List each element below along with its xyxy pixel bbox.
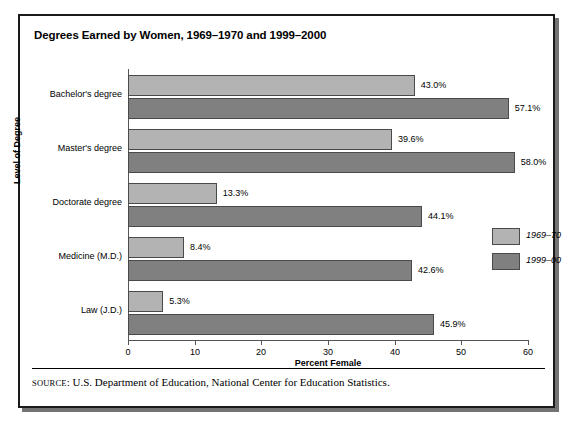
bar-medicine-1969 [128,237,184,258]
bar-masters-1969 [128,129,392,150]
source-divider [32,368,545,369]
x-tick-60 [528,340,529,345]
bar-value-bachelors-1969: 43.0% [421,75,447,96]
legend-label-1969: 1969–70 [526,230,561,240]
figure-frame: Degrees Earned by Women, 1969–1970 and 1… [18,14,555,408]
bar-doctorate-1969 [128,183,217,204]
x-tick-label-0: 0 [125,347,130,357]
x-tick-40 [395,340,396,345]
bar-law-1999 [128,314,434,335]
x-tick-label-60: 60 [523,347,533,357]
chart-legend: 1969–70 1999–00 [492,226,552,276]
bar-value-law-1999: 45.9% [440,314,466,335]
bar-masters-1999 [128,152,515,173]
category-label-masters: Master's degree [58,143,122,153]
x-tick-10 [195,340,196,345]
bar-value-law-1969: 5.3% [169,291,190,312]
bar-law-1969 [128,291,163,312]
bar-value-doctorate-1999: 44.1% [428,206,454,227]
x-tick-30 [328,340,329,345]
bar-value-masters-1999: 58.0% [521,152,547,173]
category-label-medicine: Medicine (M.D.) [58,251,122,261]
source-prefix: SOURCE [32,378,67,388]
bar-value-bachelors-1999: 57.1% [515,98,541,119]
source-note: SOURCE: U.S. Department of Education, Na… [32,376,390,388]
category-label-law: Law (J.D.) [81,305,122,315]
bar-bachelors-1999 [128,98,509,119]
x-tick-label-40: 40 [390,347,400,357]
x-tick-label-10: 10 [190,347,200,357]
bar-value-medicine-1999: 42.6% [418,260,444,281]
bar-bachelors-1969 [128,75,415,96]
x-tick-0 [128,340,129,345]
x-tick-label-30: 30 [323,347,333,357]
source-text: : U.S. Department of Education, National… [67,376,390,388]
chart-title: Degrees Earned by Women, 1969–1970 and 1… [34,29,326,41]
category-label-doctorate: Doctorate degree [52,197,122,207]
x-tick-50 [461,340,462,345]
category-label-column: Bachelor's degree Master's degree Doctor… [20,69,122,340]
x-tick-label-20: 20 [256,347,266,357]
plot-area: 0 10 20 30 40 50 60 43.0% 57.1% 39.6% 58… [128,69,528,340]
bar-medicine-1999 [128,260,412,281]
bar-value-doctorate-1969: 13.3% [223,183,249,204]
x-tick-20 [261,340,262,345]
legend-swatch-1999 [492,253,520,270]
legend-row-1999: 1999–00 [492,251,552,276]
bar-value-masters-1969: 39.6% [398,129,424,150]
category-label-bachelors: Bachelor's degree [50,89,122,99]
legend-row-1969: 1969–70 [492,226,552,251]
legend-swatch-1969 [492,228,520,245]
legend-label-1999: 1999–00 [526,255,561,265]
bar-value-medicine-1969: 8.4% [190,237,211,258]
x-tick-label-50: 50 [456,347,466,357]
x-axis-title: Percent Female [128,358,528,368]
bar-doctorate-1999 [128,206,422,227]
